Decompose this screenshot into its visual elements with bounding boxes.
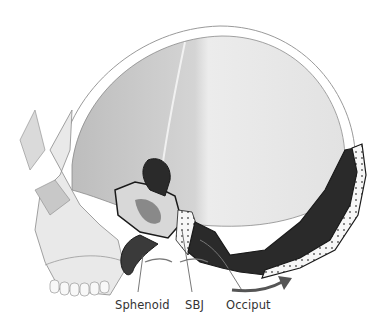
label-sbj: SBJ [185,298,204,312]
label-sphenoid: Sphenoid [115,298,170,312]
label-occiput: Occiput [226,298,271,312]
skull-illustration [0,0,384,327]
cranium [72,36,345,226]
